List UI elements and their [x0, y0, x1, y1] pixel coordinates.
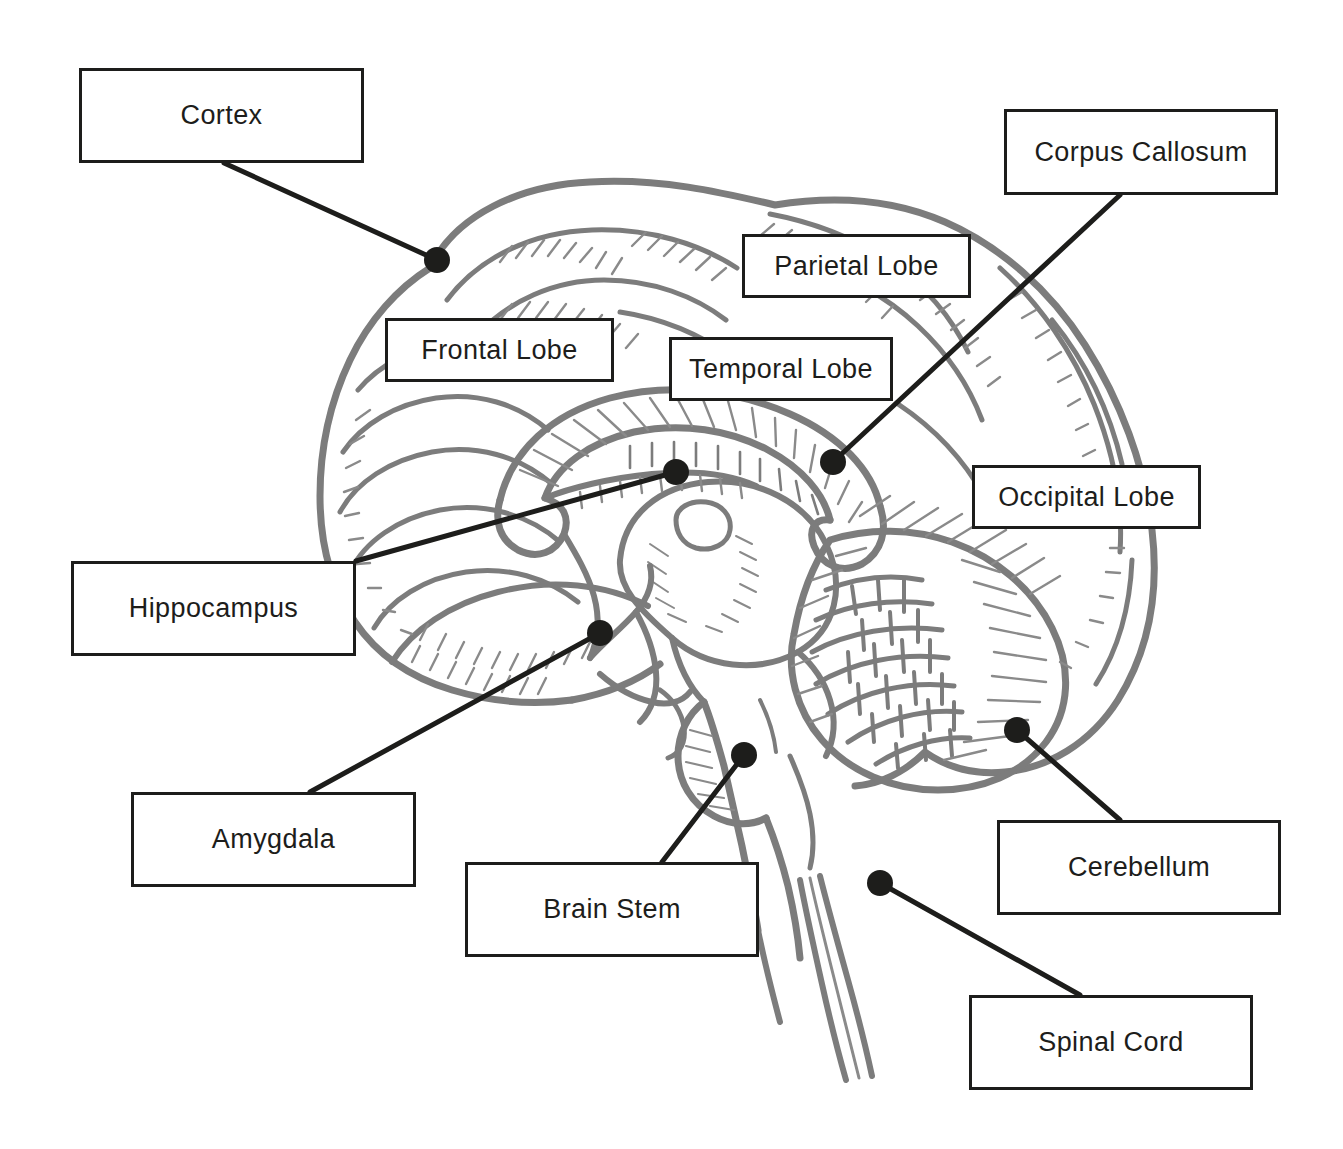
spinal-cord-left	[800, 880, 846, 1080]
label-box-frontal-lobe[interactable]: Frontal Lobe	[385, 318, 614, 382]
label-box-amygdala[interactable]: Amygdala	[131, 792, 416, 887]
anchor-dot-cortex	[424, 247, 450, 273]
label-text-temporal-lobe: Temporal Lobe	[689, 356, 873, 383]
medulla-outline	[766, 818, 800, 958]
label-text-cerebellum: Cerebellum	[1068, 854, 1210, 881]
anchor-dot-corpus-callosum	[820, 449, 846, 475]
label-text-spinal-cord: Spinal Cord	[1038, 1029, 1183, 1056]
label-box-occipital-lobe[interactable]: Occipital Lobe	[972, 465, 1201, 529]
label-text-hippocampus: Hippocampus	[129, 595, 299, 622]
leader-line-amygdala	[310, 633, 600, 792]
label-text-brain-stem: Brain Stem	[543, 896, 681, 923]
fourth-ventricle	[790, 756, 813, 868]
cingulate-comb	[420, 624, 590, 670]
frontal-gyrus-4	[350, 508, 560, 572]
label-box-corpus-callosum[interactable]: Corpus Callosum	[1004, 109, 1278, 195]
label-text-parietal-lobe: Parietal Lobe	[774, 253, 938, 280]
label-text-amygdala: Amygdala	[212, 826, 335, 853]
brain-diagram-page: Cortex Corpus Callosum Parietal Lobe Fro…	[0, 0, 1343, 1149]
label-box-hippocampus[interactable]: Hippocampus	[71, 561, 356, 656]
label-box-brain-stem[interactable]: Brain Stem	[465, 862, 759, 957]
label-text-frontal-lobe: Frontal Lobe	[421, 337, 577, 364]
cerebral-aqueduct	[760, 700, 776, 752]
label-box-spinal-cord[interactable]: Spinal Cord	[969, 995, 1253, 1090]
label-text-cortex: Cortex	[181, 102, 263, 129]
medulla-anterior-extension	[758, 930, 780, 1022]
label-text-corpus-callosum: Corpus Callosum	[1034, 139, 1247, 166]
label-box-cortex[interactable]: Cortex	[79, 68, 364, 163]
spinal-cord-right	[820, 876, 872, 1076]
anchor-dot-cerebellum	[1004, 717, 1030, 743]
cingulate-outer	[392, 584, 648, 662]
sulci-hatching	[344, 224, 1124, 694]
optic-chiasm	[636, 612, 656, 722]
anchor-dot-amygdala	[587, 620, 613, 646]
frontal-gyrus-2	[343, 396, 548, 452]
gyrus-fold-1	[447, 230, 737, 300]
label-box-parietal-lobe[interactable]: Parietal Lobe	[742, 234, 971, 298]
anchor-dot-hippocampus	[663, 459, 689, 485]
leader-line-cortex	[224, 163, 437, 260]
label-text-occipital-lobe: Occipital Lobe	[998, 484, 1175, 511]
fornix	[545, 473, 756, 499]
label-box-temporal-lobe[interactable]: Temporal Lobe	[669, 337, 893, 401]
label-box-cerebellum[interactable]: Cerebellum	[997, 820, 1281, 915]
temporal-inferior-outline	[572, 664, 660, 700]
massa-intermedia	[676, 502, 730, 549]
leader-line-cerebellum	[1017, 730, 1120, 820]
corpus-callosum-outer	[500, 390, 880, 506]
anchor-dot-spinal-cord	[867, 870, 893, 896]
anchor-dot-brain-stem	[731, 742, 757, 768]
